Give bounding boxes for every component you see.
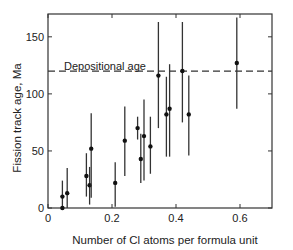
depositional-age-label: Depositional age bbox=[64, 60, 146, 72]
data-point bbox=[156, 73, 160, 77]
data-point bbox=[60, 194, 64, 198]
plot-border bbox=[48, 14, 272, 208]
data-point bbox=[142, 134, 146, 138]
x-tick-label: 0 bbox=[45, 212, 51, 224]
y-tick-label: 50 bbox=[32, 145, 44, 157]
data-point bbox=[180, 69, 184, 73]
plot-frame bbox=[48, 14, 272, 208]
data-point bbox=[167, 107, 171, 111]
y-tick-label: 150 bbox=[26, 31, 44, 43]
x-tick-label: 0.2 bbox=[104, 212, 119, 224]
data-point bbox=[123, 138, 127, 142]
data-point bbox=[60, 206, 64, 210]
scatter-chart: 00.20.40.6 050100150 Depositional age Nu… bbox=[0, 0, 293, 250]
y-tick-label: 0 bbox=[38, 202, 44, 214]
x-tick-label: 0.6 bbox=[232, 212, 247, 224]
data-point bbox=[84, 174, 88, 178]
x-tick-label: 0.4 bbox=[168, 212, 183, 224]
data-point bbox=[148, 144, 152, 148]
y-axis-label: Fission track age, Ma bbox=[11, 63, 23, 173]
y-tick-label: 100 bbox=[26, 88, 44, 100]
data-point bbox=[187, 112, 191, 116]
x-axis-ticks: 00.20.40.6 bbox=[45, 14, 248, 224]
data-point bbox=[139, 157, 143, 161]
data-point bbox=[135, 126, 139, 130]
data-point bbox=[65, 191, 69, 195]
chart-canvas: 00.20.40.6 050100150 Depositional age Nu… bbox=[0, 0, 293, 250]
data-point bbox=[164, 112, 168, 116]
x-axis-label: Number of Cl atoms per formula unit bbox=[72, 234, 258, 246]
data-point bbox=[235, 61, 239, 65]
data-point bbox=[89, 146, 93, 150]
data-point bbox=[113, 181, 117, 185]
data-points bbox=[60, 17, 239, 210]
